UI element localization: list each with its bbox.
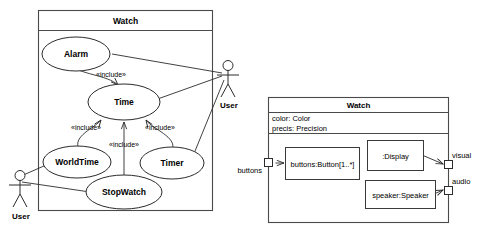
actor-user-right[interactable]: User xyxy=(217,61,239,111)
port-visual-shape[interactable] xyxy=(445,161,453,169)
use-case-alarm-label: Alarm xyxy=(64,49,89,59)
use-case-stopwatch[interactable]: StopWatch xyxy=(86,175,162,209)
use-case-timer-label: Timer xyxy=(161,158,185,168)
part-speaker[interactable]: speaker:Speaker xyxy=(366,181,436,209)
part-buttons[interactable]: buttons:Button[1..*] xyxy=(286,148,360,180)
actor-user-left[interactable]: User xyxy=(9,171,31,222)
class-name-label: Watch xyxy=(347,101,371,110)
port-audio-shape[interactable] xyxy=(445,187,453,195)
use-case-stopwatch-label: StopWatch xyxy=(102,187,146,197)
actor-user-right-label: User xyxy=(220,101,238,110)
include-label-worldtime-time: «include» xyxy=(71,124,101,131)
class-attribute-color: color: Color xyxy=(272,114,311,123)
actor-user-left-label: User xyxy=(12,212,30,221)
port-buttons-shape[interactable] xyxy=(265,159,273,167)
diagram-canvas: Watch Alarm xyxy=(0,0,486,233)
actor-user-right-legs xyxy=(221,84,235,97)
actor-user-left-legs xyxy=(13,194,27,207)
use-case-diagram: Watch Alarm xyxy=(9,11,239,222)
part-speaker-label: speaker:Speaker xyxy=(372,191,429,200)
use-case-worldtime-label: WorldTime xyxy=(55,157,99,167)
port-buttons[interactable]: buttons xyxy=(237,159,272,176)
port-visual-label: visual xyxy=(452,151,472,160)
class-attribute-precis: precis: Precision xyxy=(272,124,327,133)
use-case-worldtime[interactable]: WorldTime xyxy=(43,146,111,178)
actor-user-left-head xyxy=(15,171,25,181)
use-case-alarm[interactable]: Alarm xyxy=(42,37,110,71)
use-case-time[interactable]: Time xyxy=(88,84,160,120)
include-label-stopwatch-time: «include» xyxy=(109,141,139,148)
port-buttons-label: buttons xyxy=(237,166,262,175)
port-audio-label: audio xyxy=(452,177,470,186)
use-case-time-label: Time xyxy=(114,97,134,107)
include-label-alarm-time: «include» xyxy=(96,71,126,78)
part-buttons-label: buttons:Button[1..*] xyxy=(291,160,355,169)
part-display[interactable]: :Display xyxy=(368,141,424,171)
composite-structure-diagram: Watch color: Color precis: Precision but… xyxy=(237,98,471,223)
use-case-timer[interactable]: Timer xyxy=(140,147,204,179)
include-label-timer-time: «include» xyxy=(145,124,175,131)
actor-user-right-head xyxy=(223,61,233,71)
part-display-label: :Display xyxy=(382,152,409,161)
system-name-label: Watch xyxy=(113,16,138,26)
